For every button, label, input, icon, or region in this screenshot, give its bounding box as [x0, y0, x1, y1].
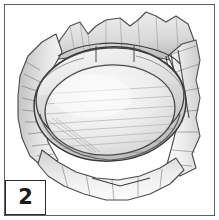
- illustration-panel: 2: [0, 0, 219, 220]
- step-number-badge: 2: [5, 180, 46, 215]
- step-number-label: 2: [18, 187, 33, 208]
